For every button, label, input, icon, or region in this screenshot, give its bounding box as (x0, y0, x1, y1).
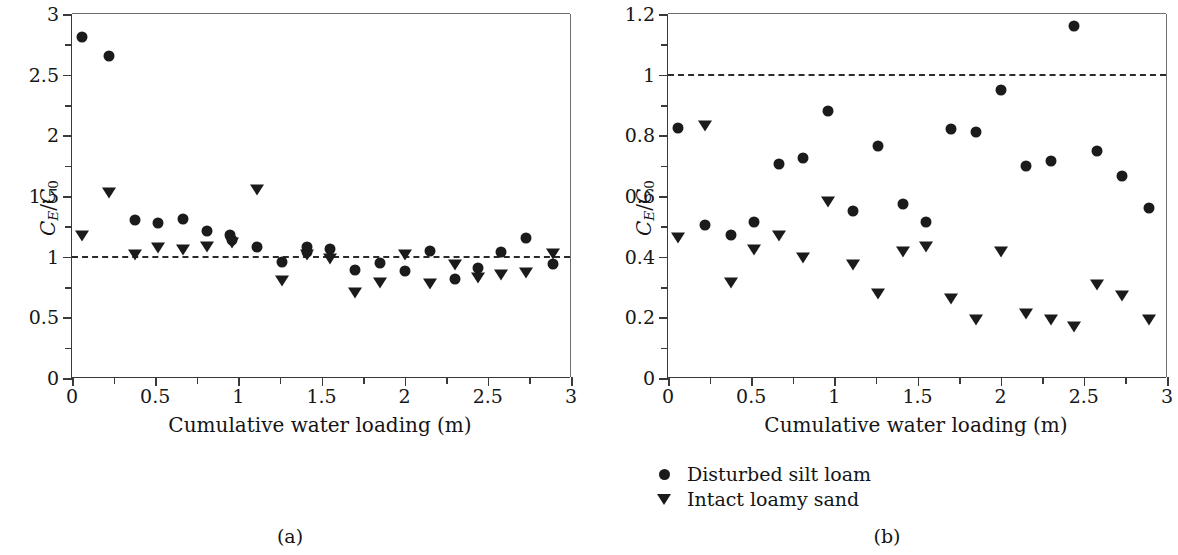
x-ticklabel-3: 3 (1161, 387, 1173, 406)
y-minor-tick-0.5 (661, 226, 668, 228)
data-point (225, 237, 239, 248)
y-minor-tick-2.75 (65, 44, 72, 46)
y-minor-tick-1.25 (65, 226, 72, 228)
y-ticklabel-2: 2 (47, 126, 59, 145)
x-ticklabel-1.5: 1.5 (902, 387, 932, 406)
data-point (496, 246, 507, 257)
data-point (323, 253, 337, 264)
data-point (796, 252, 810, 263)
data-point (472, 262, 483, 273)
data-point (349, 265, 360, 276)
y-tick-0 (659, 378, 668, 380)
data-point (872, 140, 883, 151)
data-point (130, 215, 141, 226)
legend-label-disturbed-silt-loam: Disturbed silt loam (687, 465, 871, 484)
data-point (1115, 290, 1129, 301)
x-ticklabel-0.5: 0.5 (140, 387, 170, 406)
y-axis-label-b: CE/C0 (616, 196, 672, 220)
y-minor-tick-0.3 (661, 287, 668, 289)
circle-marker-icon (651, 469, 677, 480)
y-axis-label-slash-b: / (632, 204, 656, 211)
y-minor-tick-0.9 (661, 105, 668, 107)
data-point (969, 314, 983, 325)
data-point (275, 275, 289, 286)
data-point (970, 127, 981, 138)
data-point (772, 231, 786, 242)
reference-line-y1 (668, 74, 1166, 76)
y-tick-1.2 (659, 14, 668, 16)
data-point (896, 246, 910, 257)
data-point (847, 206, 858, 217)
data-point (897, 198, 908, 209)
data-point (250, 184, 264, 195)
data-point (519, 268, 533, 279)
y-ticklabel-0: 0 (643, 369, 655, 388)
data-point (424, 245, 435, 256)
y-axis-label-denominator-a: C0 (36, 180, 60, 204)
y-axis-label-numerator-a: CE (36, 211, 60, 236)
data-point (1142, 314, 1156, 325)
y-tick-0.8 (659, 135, 668, 137)
data-point (546, 248, 560, 259)
y-tick-0.4 (659, 257, 668, 259)
data-point (1117, 171, 1128, 182)
data-point (749, 216, 760, 227)
data-point (774, 159, 785, 170)
x-minor-tick-0.25 (710, 377, 712, 384)
x-minor-tick-1.25 (876, 377, 878, 384)
data-point (76, 32, 87, 43)
x-ticklabel-2.5: 2.5 (1069, 387, 1099, 406)
x-ticklabel-1: 1 (828, 387, 840, 406)
y-minor-tick-2.25 (65, 105, 72, 107)
data-point (200, 241, 214, 252)
x-minor-tick-2.25 (446, 377, 448, 384)
y-ticklabel-0.2: 0.2 (625, 308, 655, 327)
data-point (494, 269, 508, 280)
y-ticklabel-1: 1 (47, 247, 59, 266)
x-axis-label-a: Cumulative water loading (m) (168, 413, 471, 437)
data-point (994, 246, 1008, 257)
data-point (726, 230, 737, 241)
y-tick-0.2 (659, 317, 668, 319)
data-point (1020, 160, 1031, 171)
y-tick-2.5 (63, 75, 72, 77)
data-point (201, 226, 212, 237)
chart-panel-a: 00.511.522.5300.511.522.53 CE/C0 Cumulat… (0, 0, 589, 555)
y-tick-0 (63, 378, 72, 380)
data-point (373, 278, 387, 289)
legend-item-disturbed-silt-loam: Disturbed silt loam (651, 462, 951, 487)
legend-label-intact-loamy-sand: Intact loamy sand (687, 490, 859, 509)
data-point (547, 258, 558, 269)
y-minor-tick-0.25 (65, 348, 72, 350)
data-point (348, 287, 362, 298)
data-point (151, 242, 165, 253)
x-ticklabel-2: 2 (399, 387, 411, 406)
data-point (102, 188, 116, 199)
data-point (1019, 308, 1033, 319)
x-ticklabel-0: 0 (662, 387, 674, 406)
data-point (1067, 322, 1081, 333)
x-minor-tick-2.25 (1042, 377, 1044, 384)
y-minor-tick-1.75 (65, 166, 72, 168)
data-point (846, 260, 860, 271)
y-axis-label-numerator-b: CE (632, 211, 656, 236)
data-point (399, 266, 410, 277)
axis-spine-top-b (668, 13, 1166, 14)
plot-area-b: 00.20.40.60.811.200.511.522.53 (667, 14, 1166, 378)
data-point (919, 241, 933, 252)
y-tick-2 (63, 135, 72, 137)
data-point (300, 250, 314, 261)
data-point (945, 124, 956, 135)
data-point (251, 241, 262, 252)
data-point (75, 230, 89, 241)
y-ticklabel-0.4: 0.4 (625, 247, 655, 266)
data-point (699, 219, 710, 230)
x-axis-label-b: Cumulative water loading (m) (764, 413, 1067, 437)
y-tick-3 (63, 14, 72, 16)
x-ticklabel-1: 1 (232, 387, 244, 406)
data-point (153, 217, 164, 228)
data-point (1044, 314, 1058, 325)
data-point (1068, 21, 1079, 32)
x-minor-tick-2.75 (529, 377, 531, 384)
figure-root: 00.511.522.5300.511.522.53 CE/C0 Cumulat… (0, 0, 1178, 555)
